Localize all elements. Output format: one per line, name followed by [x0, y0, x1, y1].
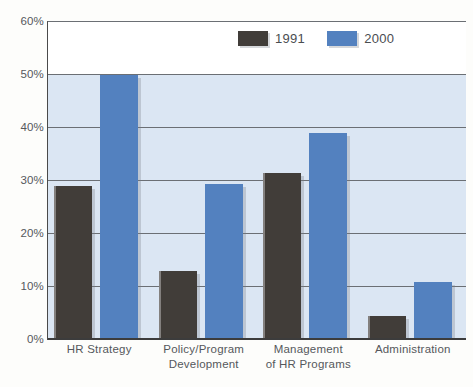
y-axis-tick-label: 10% [8, 280, 44, 292]
bars-layer [48, 22, 466, 340]
bar-group [48, 22, 153, 340]
y-axis-tick-label: 30% [8, 174, 44, 186]
x-axis-line [48, 338, 466, 340]
bar-shadow [347, 136, 350, 340]
bar-shadow [452, 285, 455, 340]
legend-swatch-icon [327, 31, 357, 46]
bar[interactable] [309, 133, 347, 340]
bar-shadow [92, 189, 95, 340]
bar-shadow [138, 78, 141, 340]
plot-area [47, 21, 466, 340]
y-axis: 0%10%20%30%40%50%60% [0, 0, 44, 387]
x-axis-tick-label-line: Policy/Program [152, 342, 257, 357]
y-axis-tick-label: 60% [8, 15, 44, 27]
bar[interactable] [100, 75, 138, 340]
x-axis-tick-label-line: Development [152, 357, 257, 372]
x-axis: HR StrategyPolicy/ProgramDevelopmentMana… [47, 342, 465, 386]
bar[interactable] [159, 271, 197, 340]
y-axis-tick-label: 0% [8, 333, 44, 345]
legend-label: 2000 [364, 31, 394, 46]
bar[interactable] [414, 282, 452, 340]
y-axis-tick-label: 20% [8, 227, 44, 239]
x-axis-tick-label-line: of HR Programs [256, 357, 361, 372]
bar[interactable] [368, 316, 406, 340]
bar-shadow [243, 187, 246, 340]
bar-group [362, 22, 467, 340]
bar[interactable] [205, 184, 243, 340]
legend-item[interactable]: 1991 [238, 31, 305, 46]
bar-shadow [406, 319, 409, 340]
bar-chart: 0%10%20%30%40%50%60% 19912000 HR Strateg… [0, 0, 473, 387]
y-axis-tick-label: 50% [8, 68, 44, 80]
x-axis-tick-label: Administration [361, 342, 466, 357]
legend: 19912000 [238, 31, 394, 46]
x-axis-tick-label-line: Administration [361, 342, 466, 357]
x-axis-tick-label-line: Management [256, 342, 361, 357]
x-axis-tick-label: Policy/ProgramDevelopment [152, 342, 257, 372]
legend-item[interactable]: 2000 [327, 31, 394, 46]
bar-shadow [197, 274, 200, 340]
bar-group [153, 22, 258, 340]
y-axis-tick-label: 40% [8, 121, 44, 133]
bar[interactable] [263, 173, 301, 340]
bar-group [257, 22, 362, 340]
bar-shadow [301, 176, 304, 340]
x-axis-tick-label-line: HR Strategy [47, 342, 152, 357]
legend-swatch-icon [238, 31, 268, 46]
bar[interactable] [54, 186, 92, 340]
legend-label: 1991 [275, 31, 305, 46]
x-axis-tick-label: Managementof HR Programs [256, 342, 361, 372]
x-axis-tick-label: HR Strategy [47, 342, 152, 357]
